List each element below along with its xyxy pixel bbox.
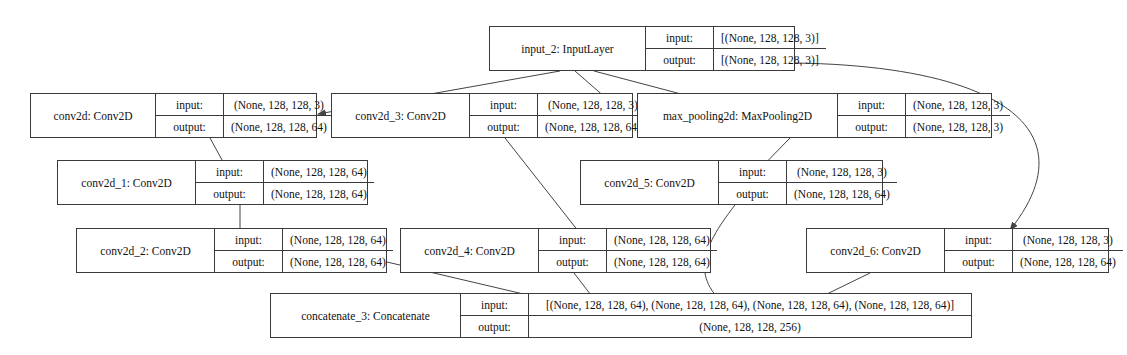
output-label: output: [470, 116, 538, 137]
node-name-label: max_pooling2d: MaxPooling2D [638, 94, 838, 137]
node-name-label: conv2d_6: Conv2D [807, 229, 945, 272]
output-shape-value: (None, 128, 128, 64) [538, 116, 648, 137]
node-name-label: conv2d_1: Conv2D [58, 161, 196, 204]
input-label: input: [461, 294, 529, 315]
input-shape-value: (None, 128, 128, 64) [283, 229, 393, 250]
node-input-row: input: (None, 128, 128, 64) [539, 229, 717, 251]
input-shape-value: (None, 128, 128, 64) [264, 161, 374, 182]
output-label: output: [838, 116, 906, 137]
output-shape-value: (None, 128, 128, 64) [787, 183, 897, 204]
node-name-label: conv2d_4: Conv2D [401, 229, 539, 272]
output-shape-value: (None, 128, 128, 64) [224, 116, 334, 137]
input-shape-value: (None, 128, 128, 64) [607, 229, 717, 250]
output-shape-value: (None, 128, 128, 64) [1013, 251, 1123, 272]
input-shape-value: [(None, 128, 128, 3)] [714, 27, 826, 48]
node-output-row: output: (None, 128, 128, 64) [719, 183, 897, 204]
graph-node-max_pooling2d[interactable]: max_pooling2d: MaxPooling2D input: (None… [637, 93, 992, 138]
node-input-row: input: (None, 128, 128, 3) [156, 94, 334, 116]
node-output-row: output: [(None, 128, 128, 3)] [646, 49, 826, 70]
graph-node-conv2d[interactable]: conv2d: Conv2D input: (None, 128, 128, 3… [30, 93, 317, 138]
graph-node-conv2d_5[interactable]: conv2d_5: Conv2D input: (None, 128, 128,… [580, 160, 883, 205]
input-label: input: [470, 94, 538, 115]
output-label: output: [461, 316, 529, 337]
output-label: output: [719, 183, 787, 204]
output-shape-value: [(None, 128, 128, 3)] [714, 49, 826, 70]
output-shape-value: (None, 128, 128, 64) [264, 183, 374, 204]
node-io-table: input: (None, 128, 128, 64) output: (Non… [539, 229, 717, 272]
input-label: input: [838, 94, 906, 115]
node-name-label: conv2d_3: Conv2D [332, 94, 470, 137]
input-shape-value: (None, 128, 128, 3) [787, 161, 897, 182]
node-io-table: input: (None, 128, 128, 3) output: (None… [470, 94, 648, 137]
output-label: output: [156, 116, 224, 137]
graph-node-concatenate_3[interactable]: concatenate_3: Concatenate input: [(None… [270, 293, 972, 338]
output-shape-value: (None, 128, 128, 3) [906, 116, 1010, 137]
input-shape-value: (None, 128, 128, 3) [538, 94, 648, 115]
graph-node-conv2d_6[interactable]: conv2d_6: Conv2D input: (None, 128, 128,… [806, 228, 1109, 273]
input-label: input: [156, 94, 224, 115]
node-input-row: input: (None, 128, 128, 3) [945, 229, 1123, 251]
input-shape-value: (None, 128, 128, 3) [224, 94, 334, 115]
node-io-table: input: (None, 128, 128, 3) output: (None… [838, 94, 1010, 137]
output-shape-value: (None, 128, 128, 64) [607, 251, 717, 272]
input-shape-value: (None, 128, 128, 3) [906, 94, 1010, 115]
node-input-row: input: [(None, 128, 128, 64), (None, 128… [461, 294, 971, 316]
input-label: input: [719, 161, 787, 182]
node-input-row: input: (None, 128, 128, 3) [470, 94, 648, 116]
node-io-table: input: (None, 128, 128, 3) output: (None… [719, 161, 897, 204]
node-output-row: output: (None, 128, 128, 64) [945, 251, 1123, 272]
node-output-row: output: (None, 128, 128, 64) [196, 183, 374, 204]
node-input-row: input: (None, 128, 128, 3) [719, 161, 897, 183]
graph-node-conv2d_4[interactable]: conv2d_4: Conv2D input: (None, 128, 128,… [400, 228, 711, 273]
output-label: output: [196, 183, 264, 204]
node-io-table: input: (None, 128, 128, 3) output: (None… [156, 94, 334, 137]
node-output-row: output: (None, 128, 128, 64) [156, 116, 334, 137]
input-label: input: [945, 229, 1013, 250]
node-io-table: input: [(None, 128, 128, 3)] output: [(N… [646, 27, 826, 70]
output-label: output: [539, 251, 607, 272]
node-name-label: input_2: InputLayer [490, 27, 646, 70]
node-output-row: output: (None, 128, 128, 256) [461, 316, 971, 337]
node-output-row: output: (None, 128, 128, 64) [539, 251, 717, 272]
input-shape-value: [(None, 128, 128, 64), (None, 128, 128, … [529, 294, 971, 315]
input-label: input: [646, 27, 714, 48]
node-name-label: concatenate_3: Concatenate [271, 294, 461, 337]
output-label: output: [215, 251, 283, 272]
node-input-row: input: (None, 128, 128, 64) [196, 161, 374, 183]
input-shape-value: (None, 128, 128, 3) [1013, 229, 1123, 250]
node-io-table: input: [(None, 128, 128, 64), (None, 128… [461, 294, 971, 337]
node-io-table: input: (None, 128, 128, 64) output: (Non… [215, 229, 393, 272]
node-io-table: input: (None, 128, 128, 64) output: (Non… [196, 161, 374, 204]
node-input-row: input: (None, 128, 128, 64) [215, 229, 393, 251]
graph-node-conv2d_1[interactable]: conv2d_1: Conv2D input: (None, 128, 128,… [57, 160, 368, 205]
output-shape-value: (None, 128, 128, 64) [283, 251, 393, 272]
node-output-row: output: (None, 128, 128, 3) [838, 116, 1010, 137]
input-label: input: [196, 161, 264, 182]
output-label: output: [945, 251, 1013, 272]
output-shape-value: (None, 128, 128, 256) [529, 316, 971, 337]
model-graph-canvas: input_2: InputLayer input: [(None, 128, … [0, 0, 1127, 355]
graph-node-input_2[interactable]: input_2: InputLayer input: [(None, 128, … [489, 26, 795, 71]
input-label: input: [215, 229, 283, 250]
graph-node-conv2d_2[interactable]: conv2d_2: Conv2D input: (None, 128, 128,… [76, 228, 387, 273]
node-output-row: output: (None, 128, 128, 64) [215, 251, 393, 272]
node-name-label: conv2d_2: Conv2D [77, 229, 215, 272]
node-input-row: input: (None, 128, 128, 3) [838, 94, 1010, 116]
input-label: input: [539, 229, 607, 250]
node-output-row: output: (None, 128, 128, 64) [470, 116, 648, 137]
node-input-row: input: [(None, 128, 128, 3)] [646, 27, 826, 49]
node-name-label: conv2d_5: Conv2D [581, 161, 719, 204]
output-label: output: [646, 49, 714, 70]
node-io-table: input: (None, 128, 128, 3) output: (None… [945, 229, 1123, 272]
node-name-label: conv2d: Conv2D [31, 94, 156, 137]
graph-node-conv2d_3[interactable]: conv2d_3: Conv2D input: (None, 128, 128,… [331, 93, 633, 138]
